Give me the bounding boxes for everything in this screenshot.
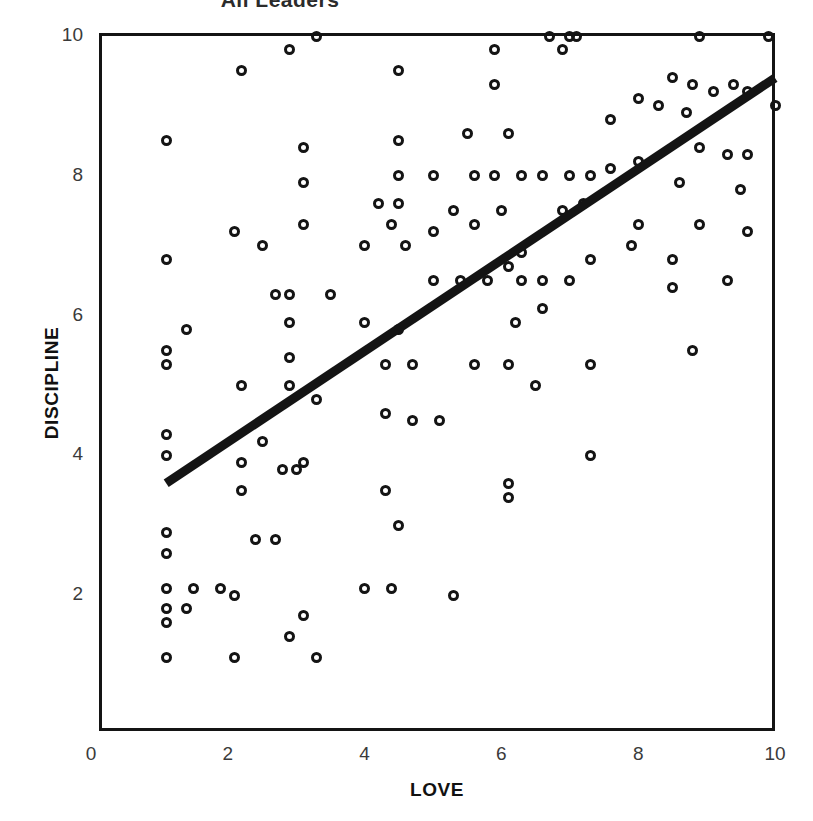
scatter-point <box>393 65 404 76</box>
scatter-point <box>544 31 555 42</box>
scatter-point <box>469 219 480 230</box>
scatter-point <box>380 485 391 496</box>
y-tick-label: 6 <box>43 304 83 326</box>
scatter-point <box>257 436 268 447</box>
x-axis-title: LOVE <box>337 779 537 801</box>
y-tick-label: 10 <box>43 24 83 46</box>
scatter-point <box>489 44 500 55</box>
scatter-point <box>434 415 445 426</box>
scatter-point <box>236 457 247 468</box>
scatter-point <box>236 380 247 391</box>
scatter-point <box>633 219 644 230</box>
scatter-point <box>503 261 514 272</box>
scatter-point <box>681 107 692 118</box>
scatter-point <box>298 610 309 621</box>
scatter-point <box>284 44 295 55</box>
scatter-point <box>728 79 739 90</box>
scatter-point <box>489 79 500 90</box>
scatter-point <box>284 352 295 363</box>
scatter-point <box>428 170 439 181</box>
scatter-point <box>161 603 172 614</box>
scatter-point <box>284 317 295 328</box>
scatter-point <box>161 527 172 538</box>
scatter-point <box>298 457 309 468</box>
scatter-point <box>407 359 418 370</box>
scatter-point <box>380 359 391 370</box>
scatter-point <box>585 450 596 461</box>
scatter-point <box>407 415 418 426</box>
scatter-point <box>393 135 404 146</box>
scatter-point <box>674 177 685 188</box>
x-tick-label: 10 <box>755 743 795 765</box>
scatter-point <box>181 603 192 614</box>
scatter-point <box>236 65 247 76</box>
x-tick-label: 6 <box>481 743 521 765</box>
scatter-point <box>742 86 753 97</box>
scatter-point <box>571 31 582 42</box>
scatter-point <box>694 31 705 42</box>
scatter-point <box>510 317 521 328</box>
scatter-point <box>722 149 733 160</box>
scatter-point <box>585 254 596 265</box>
scatter-point <box>359 317 370 328</box>
scatter-point <box>284 631 295 642</box>
scatter-point <box>284 380 295 391</box>
y-axis-title: DISCIPLINE <box>41 303 63 463</box>
scatter-point <box>455 275 466 286</box>
scatter-point <box>503 128 514 139</box>
scatter-point <box>742 226 753 237</box>
scatter-point <box>742 149 753 160</box>
scatter-point <box>215 583 226 594</box>
scatter-point <box>428 275 439 286</box>
scatter-point <box>469 359 480 370</box>
scatter-point <box>557 205 568 216</box>
scatter-point <box>448 590 459 601</box>
scatter-point <box>585 170 596 181</box>
scatter-point <box>359 583 370 594</box>
scatter-point <box>585 359 596 370</box>
scatter-point <box>161 254 172 265</box>
scatter-point <box>161 450 172 461</box>
scatter-point <box>188 583 199 594</box>
scatter-point <box>393 520 404 531</box>
x-tick-label: 8 <box>618 743 658 765</box>
scatter-point <box>393 170 404 181</box>
scatter-point <box>311 652 322 663</box>
scatter-point <box>270 534 281 545</box>
scatter-point <box>298 177 309 188</box>
scatter-point <box>161 135 172 146</box>
scatter-point <box>722 275 733 286</box>
scatter-point <box>298 219 309 230</box>
scatter-point <box>428 226 439 237</box>
scatter-point <box>386 583 397 594</box>
scatter-point <box>496 205 507 216</box>
scatter-point <box>325 289 336 300</box>
scatter-point <box>694 142 705 153</box>
scatter-point <box>284 289 295 300</box>
scatter-point <box>161 548 172 559</box>
x-tick-label: 2 <box>208 743 248 765</box>
scatter-point <box>708 86 719 97</box>
scatter-point <box>386 219 397 230</box>
scatter-point <box>257 240 268 251</box>
scatter-point <box>161 429 172 440</box>
scatter-point <box>161 359 172 370</box>
scatter-point <box>462 128 473 139</box>
scatter-point <box>489 170 500 181</box>
scatter-point <box>229 652 240 663</box>
scatter-point <box>448 205 459 216</box>
scatter-point <box>311 31 322 42</box>
page-title: All Leaders <box>0 0 560 11</box>
scatter-point <box>605 163 616 174</box>
scatter-point <box>161 652 172 663</box>
scatter-point <box>516 170 527 181</box>
scatter-point <box>516 247 527 258</box>
scatter-point <box>578 198 589 209</box>
scatter-point <box>530 380 541 391</box>
scatter-point <box>763 31 774 42</box>
scatter-point <box>687 345 698 356</box>
scatter-point <box>161 583 172 594</box>
scatter-point <box>667 282 678 293</box>
scatter-plot-figure: All Leaders DISCIPLINE LOVE 246810 02468… <box>0 0 813 821</box>
scatter-point <box>380 408 391 419</box>
